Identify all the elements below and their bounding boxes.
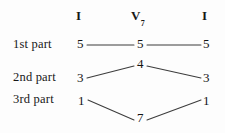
column-header-left-label: I xyxy=(76,8,81,23)
connector-row2-left xyxy=(87,66,134,78)
row-label-1st-part: 1st part xyxy=(13,37,52,52)
connector-row2-right xyxy=(147,66,201,78)
scale-degree-row2-col2: 4 xyxy=(137,56,144,72)
column-header-middle-subscript: 7 xyxy=(141,19,145,28)
column-header-left: I xyxy=(76,8,81,24)
scale-degree-row2-col1: 3 xyxy=(77,70,84,86)
connector-lines xyxy=(0,0,225,133)
scale-degree-row1-col1: 5 xyxy=(77,36,84,52)
column-header-middle: V7 xyxy=(131,8,145,26)
scale-degree-row1-col3: 5 xyxy=(203,36,210,52)
connector-row3-right xyxy=(147,100,201,120)
scale-degree-row2-col3: 3 xyxy=(203,70,210,86)
scale-degree-row3-col3: 1 xyxy=(203,93,210,109)
voice-leading-figure: I V7 I 1st part 2nd part 3rd part 5 5 5 … xyxy=(0,0,225,133)
scale-degree-row1-col2: 5 xyxy=(137,36,144,52)
scale-degree-row3-col2: 7 xyxy=(137,110,144,126)
scale-degree-row3-col1: 1 xyxy=(78,93,85,109)
row-label-2nd-part: 2nd part xyxy=(13,70,56,85)
column-header-middle-label: V xyxy=(131,8,141,23)
row-label-3rd-part: 3rd part xyxy=(13,92,54,107)
connector-row3-left xyxy=(88,100,134,120)
column-header-right: I xyxy=(202,8,207,24)
column-header-right-label: I xyxy=(202,8,207,23)
